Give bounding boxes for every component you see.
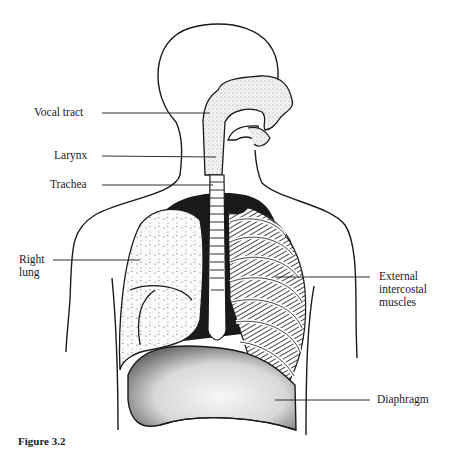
label-right-lung: Right lung — [19, 253, 45, 279]
label-external-intercostal-muscles: External intercostal muscles — [379, 270, 427, 309]
leader-larynx — [102, 156, 216, 157]
figure-caption: Figure 3.2 — [18, 435, 65, 447]
label-larynx: Larynx — [54, 149, 87, 162]
respiratory-diagram — [0, 0, 455, 455]
trachea-column — [208, 175, 226, 340]
label-vocal-tract: Vocal tract — [34, 106, 83, 119]
label-diaphragm: Diaphragm — [377, 393, 429, 406]
vocal-tract — [203, 76, 293, 175]
label-trachea: Trachea — [50, 178, 87, 191]
